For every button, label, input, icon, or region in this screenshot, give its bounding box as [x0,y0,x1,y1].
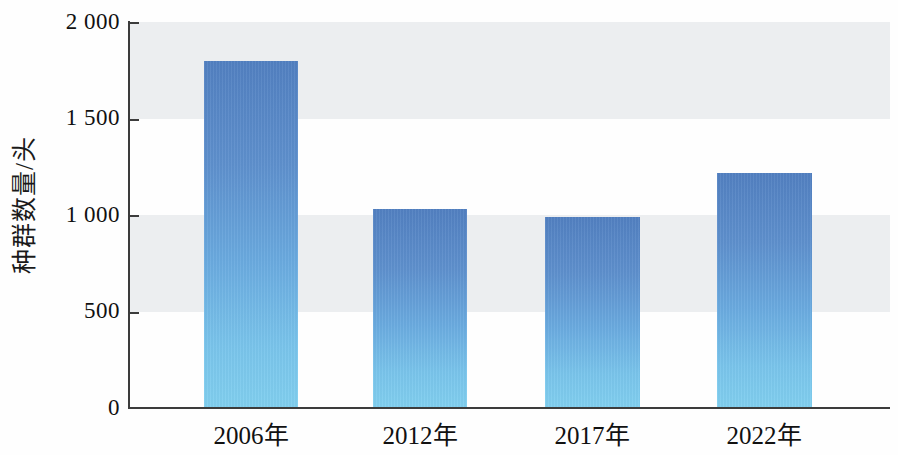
x-axis-line [128,407,890,409]
x-tick-label-2022: 2022年 [727,415,802,451]
y-axis-title: 种群数量/头 [0,0,44,410]
bar-chart: 种群数量/头 2 000 1 500 1 000 500 0 2006年 201… [0,0,898,455]
x-axis-tick-labels: 2006年 2012年 2017年 2022年 [130,415,890,455]
y-tick-label: 1 500 [66,105,120,131]
y-tick-label: 1 000 [66,202,120,228]
plot-area [130,22,890,408]
x-tick-label-2017: 2017年 [555,415,630,451]
bar-2022 [717,173,812,409]
y-axis-tick-labels: 2 000 1 500 1 000 500 0 [44,0,128,430]
y-axis-title-label: 种群数量/头 [4,136,40,274]
y-axis-tick [130,119,139,121]
y-axis-tick [130,312,139,314]
y-axis-tick [130,22,139,24]
y-tick-label: 500 [84,298,120,324]
bar-2006 [204,61,298,408]
x-tick-label-2012: 2012年 [383,415,458,451]
x-tick-label-2006: 2006年 [214,415,289,451]
y-tick-label: 2 000 [66,9,120,35]
bar-2017 [545,217,640,408]
y-axis-tick [130,215,139,217]
y-tick-label: 0 [108,395,120,421]
bar-2012 [373,209,467,408]
